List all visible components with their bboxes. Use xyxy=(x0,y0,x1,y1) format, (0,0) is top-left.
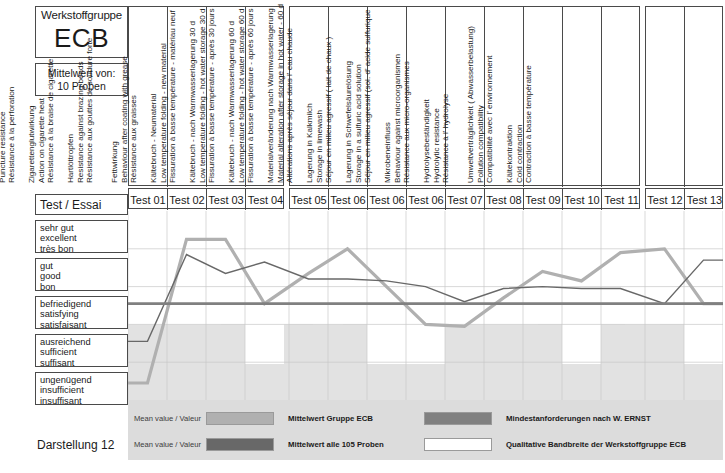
column-label-de: Kältebruch - nach Warmwasserlagerung 30 … xyxy=(188,8,198,183)
chart-legend: Mean value / Valeur Mittelwert Gruppe EC… xyxy=(128,400,723,460)
column-label-fr: Séjour en milieu agressif ( lait de chau… xyxy=(324,37,334,183)
test-number-group: Test 01Test 02Test 03Test 04 xyxy=(128,188,284,209)
test-number-group: Test 12Test 13 xyxy=(645,188,723,209)
column-label-en: Cold contraction xyxy=(515,65,525,183)
rating-fr: bon xyxy=(40,282,127,292)
test-number-cell: Test 04 xyxy=(246,189,285,210)
column-label-de: Kältebruch - nach Warmwasserlagerung 60 … xyxy=(227,8,237,183)
rating-label-ausreichend: ausreichend sufficient suffisant xyxy=(35,334,128,367)
test-number-cell: Test 11 xyxy=(602,189,641,210)
test-number-cell: Test 01 xyxy=(129,189,168,210)
rating-de: gut xyxy=(40,261,127,271)
column-label-de: Kältekontraktion xyxy=(505,65,515,183)
legend-label-minimum-requirements: Mindestanforderungen nach W. ERNST xyxy=(506,414,651,423)
column-label-de: Lagerung in Schwefelsäurelösung xyxy=(344,10,354,183)
rating-de: ungenügend xyxy=(40,375,127,385)
test-number-group: Test 05Test 06Test 06Test 06Test 07Test … xyxy=(289,188,640,209)
legend-entry-minimum-requirements: Mindestanforderungen nach W. ERNST xyxy=(424,412,651,425)
column-label-en: Puncture resistance xyxy=(0,87,7,183)
legend-label-qualitative-band: Qualitative Bandbreite der Werkstoffgrup… xyxy=(506,440,686,449)
legend-swatch-group-mean xyxy=(206,412,274,425)
test-number-cell: Test 09 xyxy=(524,189,563,210)
rating-fr: très bon xyxy=(40,244,127,254)
test-number-row: Test 01Test 02Test 03Test 04Test 05Test … xyxy=(128,188,723,209)
rating-en: excellent xyxy=(40,233,127,243)
column-label-fr: Altérations après séjour dans l' eau cha… xyxy=(285,4,295,183)
test-essai-header: Test / Essai xyxy=(35,194,128,215)
column-label-en: Resistance against brazing beads xyxy=(76,38,86,183)
column-label-cell: KältekontraktionCold contractionContract… xyxy=(685,7,724,187)
column-label-en: Behaviour after coating with grease xyxy=(120,56,130,183)
rating-label-sehr-gut: sehr gut excellent très bon xyxy=(35,220,128,253)
column-label-fr: Contraction à basse température xyxy=(524,65,534,183)
column-label-de: Zigarettenglutwirkung xyxy=(27,59,37,183)
test-number-cell: Test 05 xyxy=(290,189,329,210)
column-label-group: Umweltverträglichkeit ( Abwasserbelastun… xyxy=(645,6,723,186)
column-label-en: Behaviour against microorganismen xyxy=(393,54,403,183)
test-number-cell: Test 06 xyxy=(368,189,407,210)
column-label-en: Storage in limewash xyxy=(315,37,325,183)
chart-plot-area xyxy=(128,211,723,400)
figure-root: Werkstoffgruppe ECB Mittelwert von: 10 P… xyxy=(0,0,725,473)
legend-mean-value-label-2: Mean value / Valeur xyxy=(128,440,206,449)
legend-mean-value-label-1: Mean value / Valeur xyxy=(128,414,206,423)
figure-caption: Darstellung 12 xyxy=(37,438,114,452)
rating-de: befriedigend xyxy=(40,299,127,309)
test-number-cell: Test 06 xyxy=(407,189,446,210)
legend-label-all-samples-mean: Mittelwert alle 105 Proben xyxy=(288,440,384,449)
test-number-cell: Test 03 xyxy=(207,189,246,210)
legend-swatch-all-samples-mean xyxy=(206,438,274,451)
column-label-fr: Résistance à la braise de cigarette xyxy=(46,59,56,183)
column-label-de: Lagerung in Kalkmilch xyxy=(305,37,315,183)
rating-label-befriedigend: befriedigend satisfying satisfaisant xyxy=(35,296,128,329)
legend-row-2: Mean value / Valeur Mittelwert alle 105 … xyxy=(128,432,723,456)
column-label-strip: Kälteflexibilität (Abroll-Länge)Low temp… xyxy=(128,6,723,186)
column-label-de: Hydrolysebeständigkeit xyxy=(422,94,432,183)
rating-label-gut: gut good bon xyxy=(35,258,128,291)
column-label-fr: Séjour en milieu agressif (sol. d' acide… xyxy=(363,10,373,183)
test-number-cell: Test 08 xyxy=(485,189,524,210)
rating-en: insufficient xyxy=(40,385,127,395)
column-label-de: Fettwirkung xyxy=(110,56,120,183)
rating-en: good xyxy=(40,271,127,281)
rating-fr: suffisant xyxy=(40,358,127,368)
column-label-fr: Fissuration à basse température - après … xyxy=(246,8,256,183)
column-label-fr: Compatibilité avec l' environnement xyxy=(485,26,495,183)
test-number-cell: Test 12 xyxy=(646,189,685,210)
column-label-en: Action on cigarette heat xyxy=(37,59,47,183)
legend-swatch-minimum-requirements xyxy=(424,412,492,425)
rating-en: satisfying xyxy=(40,309,127,319)
column-label-en: Low temperature folding - hot water stor… xyxy=(237,8,247,183)
rating-de: sehr gut xyxy=(40,223,127,233)
column-label-fr: Fissuration à basse température - après … xyxy=(207,8,217,183)
column-label-de: Materialveränderung nach Warmwasserlager… xyxy=(266,4,276,183)
column-label-fr: Résistance à la perforation xyxy=(7,87,17,183)
legend-row-1: Mean value / Valeur Mittelwert Gruppe EC… xyxy=(128,406,723,430)
legend-label-group-mean: Mittelwert Gruppe ECB xyxy=(288,414,373,423)
test-number-cell: Test 02 xyxy=(168,189,207,210)
test-number-cell: Test 10 xyxy=(563,189,602,210)
column-label-fr: Résistance aux graisses xyxy=(129,56,139,183)
rating-de: ausreichend xyxy=(40,337,127,347)
column-label-fr: Fissuration à basse température - matéri… xyxy=(168,10,178,183)
column-label-en: Pollution compatibility xyxy=(476,26,486,183)
column-label-en: Hydrolytic resistance xyxy=(432,94,442,183)
rating-fr: insuffisant xyxy=(40,396,127,406)
rating-fr: satisfaisant xyxy=(40,320,127,330)
column-label-fr: Résistance aux micro-organismes xyxy=(402,54,412,183)
test-number-cell: Test 06 xyxy=(329,189,368,210)
test-number-cell: Test 07 xyxy=(446,189,485,210)
column-label-de: Mikrobeneinfluss xyxy=(383,54,393,183)
legend-entry-group-mean: Mean value / Valeur Mittelwert Gruppe EC… xyxy=(128,412,424,425)
column-label-fr: Résistance à l' hydrolyse xyxy=(441,94,451,183)
column-label-fr: Résistance aux gouttes de soudure forte xyxy=(85,38,95,183)
column-label-en: Low temperature folding - hot water stor… xyxy=(198,8,208,183)
column-label-de: Umweltverträglichkeit ( Abwasserbelastun… xyxy=(466,26,476,183)
legend-entry-all-samples-mean: Mean value / Valeur Mittelwert alle 105 … xyxy=(128,438,424,451)
rating-label-ungenuegend: ungenügend insufficient insuffisant xyxy=(35,372,128,405)
column-label-en: Material alteration after storage in hot… xyxy=(276,4,286,183)
column-label-en: Low temperature folding - new material xyxy=(159,10,169,183)
legend-swatch-qualitative-band xyxy=(424,438,492,451)
chart-svg xyxy=(128,211,723,400)
test-number-cell: Test 13 xyxy=(685,189,724,210)
